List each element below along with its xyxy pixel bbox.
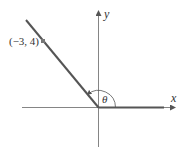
angle-diagram: (−3, 4) θ x y: [0, 0, 183, 161]
theta-label: θ: [102, 93, 108, 105]
point-label: (−3, 4): [9, 35, 39, 48]
x-axis-label: x: [170, 91, 177, 105]
point-marker: [41, 39, 45, 43]
y-axis-label: y: [103, 7, 110, 21]
